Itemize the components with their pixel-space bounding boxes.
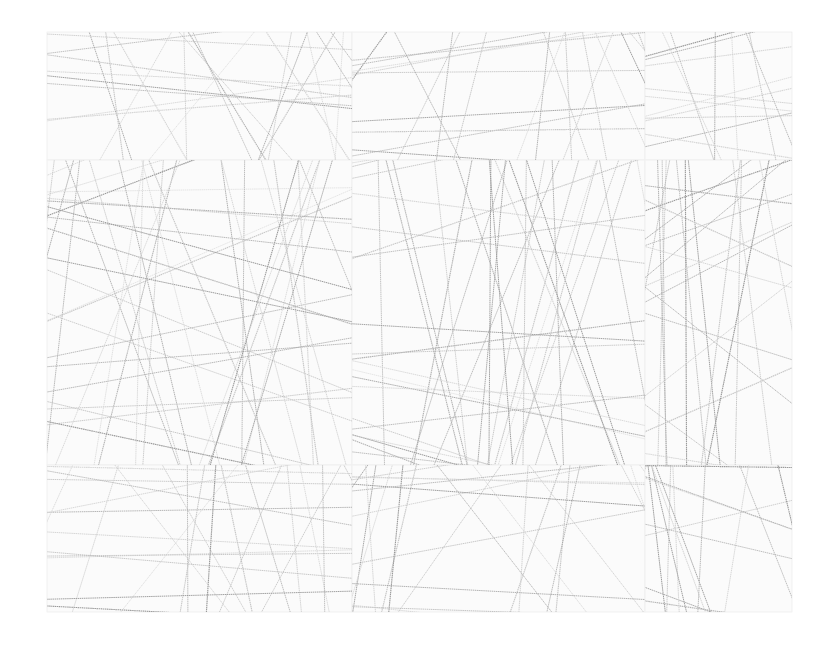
panel [645,160,792,465]
panel [47,465,352,612]
panel [352,32,645,160]
panel [645,465,792,612]
line-drawing-artwork [0,0,830,645]
paper-panels [47,32,792,612]
